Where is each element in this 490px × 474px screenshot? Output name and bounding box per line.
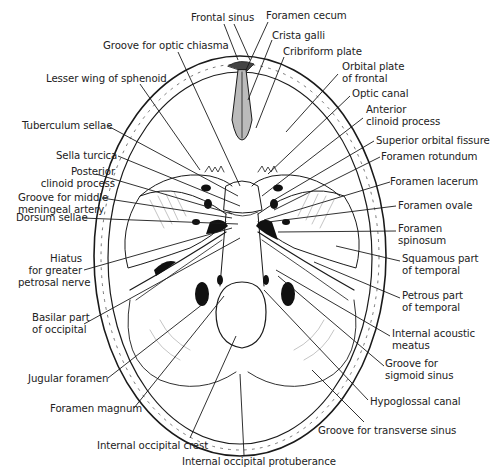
label-basilar-occipital: Basilar part of occipital xyxy=(32,312,84,336)
leader-line-foramen-magnum xyxy=(134,296,224,408)
optic-canal-right xyxy=(273,185,283,192)
label-lesser-wing-sphenoid: Lesser wing of sphenoid xyxy=(46,73,167,85)
leader-line-crista-galli xyxy=(248,40,272,100)
leader-line-cribriform-plate xyxy=(256,57,284,128)
label-anterior-clinoid-process: Anterior clinoid process xyxy=(366,104,440,128)
label-optic-canal: Optic canal xyxy=(352,88,408,100)
label-superior-orbital-fissure: Superior orbital fissure xyxy=(376,135,490,147)
jugular-foramen-right xyxy=(281,282,295,306)
foramen-magnum-shape xyxy=(216,282,266,348)
label-groove-optic-chiasma: Groove for optic chiasma xyxy=(103,40,229,52)
label-cribriform-plate: Cribriform plate xyxy=(283,46,362,58)
leader-line-anterior-clinoid-process xyxy=(262,118,363,196)
label-foramen-magnum: Foramen magnum xyxy=(50,403,142,415)
label-hypoglossal-canal: Hypoglossal canal xyxy=(370,396,461,408)
label-orbital-plate-frontal: Orbital plate of frontal xyxy=(342,61,404,85)
leader-line-foramen-spinosum xyxy=(278,231,396,232)
label-foramen-rotundum: Foramen rotundum xyxy=(381,151,477,163)
leader-line-internal-acoustic-meatus xyxy=(276,270,390,336)
label-sella-turcica: Sella turcica xyxy=(56,150,117,162)
label-foramen-cecum: Foramen cecum xyxy=(266,10,347,22)
label-foramen-lacerum: Foramen lacerum xyxy=(390,176,478,188)
label-posterior-clinoid-process: Posterior clinoid process xyxy=(25,166,115,190)
label-dorsum-sellae: Dorsum sellae xyxy=(16,212,88,224)
label-squamous-temporal: Squamous part of temporal xyxy=(402,253,478,277)
label-internal-occipital-protuberance: Internal occipital protuberance xyxy=(182,456,336,468)
label-tuberculum-sellae: Tuberculum sellae xyxy=(22,120,112,132)
label-frontal-sinus: Frontal sinus xyxy=(191,12,254,24)
jugular-foramen-left xyxy=(195,282,209,306)
leader-line-internal-occipital-crest xyxy=(190,336,236,438)
leader-line-frontal-sinus xyxy=(234,24,250,60)
label-internal-occipital-crest: Internal occipital crest xyxy=(97,440,208,452)
label-groove-sigmoid-sinus: Groove for sigmoid sinus xyxy=(385,358,453,382)
leader-line-foramen-rotundum xyxy=(274,157,380,210)
petrous-ridge-right xyxy=(258,232,354,290)
leader-line-foramen-ovale xyxy=(268,206,396,222)
label-petrous-temporal: Petrous part of temporal xyxy=(402,290,463,314)
leader-line-jugular-foramen xyxy=(108,300,208,378)
leader-line-hiatus-greater-petrosal xyxy=(84,228,232,270)
label-hiatus-greater-petrosal: Hiatus for greater petrosal nerve xyxy=(18,253,82,289)
leader-line-petrous-temporal xyxy=(314,262,400,298)
label-foramen-spinosum: Foramen spinosum xyxy=(398,223,446,247)
label-foramen-ovale: Foramen ovale xyxy=(398,200,472,212)
label-groove-transverse-sinus: Groove for transverse sinus xyxy=(318,425,456,437)
sella-turcica-shape xyxy=(224,181,262,213)
petrous-ridge-left xyxy=(130,232,226,290)
label-jugular-foramen: Jugular foramen xyxy=(28,373,108,385)
leader-line-hypoglossal-canal xyxy=(264,290,368,400)
leader-line-foramen-cecum xyxy=(246,22,268,70)
label-internal-acoustic-meatus: Internal acoustic meatus xyxy=(392,328,475,352)
lesser-wing-right xyxy=(252,175,340,196)
label-crista-galli: Crista galli xyxy=(272,30,325,42)
leader-line-squamous-temporal xyxy=(336,246,400,261)
leader-line-internal-occipital-protuberance xyxy=(240,374,244,455)
leader-line-lesser-wing-sphenoid xyxy=(140,84,200,170)
